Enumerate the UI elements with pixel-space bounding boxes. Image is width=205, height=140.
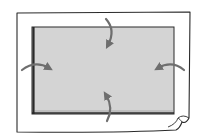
diagram-canvas [0,0,205,140]
inward-arrows-diagram [0,0,205,140]
inner-rectangle [32,27,174,114]
